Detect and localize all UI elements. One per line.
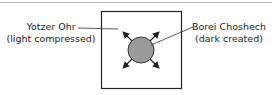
right-leader-line	[151, 27, 193, 45]
diagram-canvas	[0, 0, 272, 95]
yotzer-ohr-label: Yotzer Ohr (light compressed)	[6, 21, 96, 45]
borei-choshech-subtitle: (dark created)	[188, 33, 270, 45]
borei-choshech-title: Borei Choshech	[188, 21, 270, 33]
yotzer-ohr-title: Yotzer Ohr	[6, 21, 96, 33]
yotzer-ohr-subtitle: (light compressed)	[6, 33, 96, 45]
borei-choshech-label: Borei Choshech (dark created)	[188, 21, 270, 45]
center-circle	[128, 37, 154, 63]
